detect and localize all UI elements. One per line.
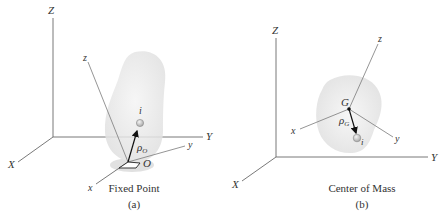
- particle-i-b: [353, 134, 361, 142]
- label-x-a: x: [87, 182, 93, 193]
- label-Y-b: Y: [431, 151, 439, 163]
- label-Z-a: Z: [48, 4, 55, 16]
- sublabel-b: (b): [356, 198, 369, 211]
- rigid-body-b: [316, 75, 381, 153]
- label-y-a: y: [187, 139, 193, 150]
- label-Z-b: Z: [272, 24, 279, 36]
- label-X-b: X: [231, 178, 240, 190]
- label-y-b: y: [394, 133, 400, 144]
- sublabel-a: (a): [128, 198, 141, 211]
- label-X-a: X: [7, 158, 16, 170]
- label-z-a: z: [82, 52, 87, 63]
- particle-label-a: i: [139, 105, 142, 116]
- panel-a-fixed-point: Z Y X z y x O ρO i Fixed Point (a): [7, 4, 214, 211]
- inertial-x-axis-a: [18, 137, 53, 162]
- caption-b: Center of Mass: [328, 182, 395, 194]
- label-x-b: x: [290, 125, 296, 136]
- point-label-G: G: [341, 96, 349, 108]
- label-z-b: z: [377, 33, 382, 44]
- particle-i-a: [136, 119, 143, 126]
- point-label-O: O: [143, 157, 151, 169]
- panel-b-center-of-mass: Z Y X z x y G ρG i Center of Mass (b): [231, 24, 439, 211]
- label-Y-a: Y: [206, 130, 214, 142]
- caption-a: Fixed Point: [108, 182, 159, 194]
- rigid-body-a: [105, 51, 165, 162]
- inertial-x-axis-b: [242, 157, 276, 181]
- rigid-body-diagrams: Z Y X z y x O ρO i Fixed Point (a) Z: [0, 0, 444, 224]
